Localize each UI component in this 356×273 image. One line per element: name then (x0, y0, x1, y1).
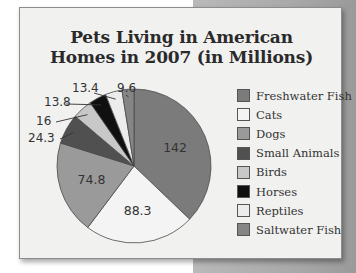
legend-swatch (237, 127, 250, 140)
legend-label: Freshwater Fish (256, 89, 352, 103)
legend-label: Horses (256, 185, 297, 199)
legend-swatch (237, 204, 250, 217)
legend-item-birds: Birds (237, 163, 352, 182)
slice-value-label: 74.8 (78, 172, 106, 187)
legend-item-horses: Horses (237, 182, 352, 201)
legend-label: Small Animals (256, 146, 339, 160)
legend-item-freshwater-fish: Freshwater Fish (237, 86, 352, 105)
legend-label: Saltwater Fish (256, 223, 341, 237)
slice-value-label: 13.8 (44, 95, 71, 109)
legend-item-small-animals: Small Animals (237, 144, 352, 163)
legend: Freshwater FishCatsDogsSmall AnimalsBird… (237, 86, 352, 240)
legend-label: Cats (256, 108, 282, 122)
slice-value-label: 16 (36, 114, 51, 128)
legend-item-dogs: Dogs (237, 124, 352, 143)
slice-value-label: 88.3 (124, 203, 152, 218)
chart-card: Pets Living in American Homes in 2007 (i… (19, 7, 342, 259)
legend-swatch (237, 185, 250, 198)
legend-swatch (237, 166, 250, 179)
legend-swatch (237, 147, 250, 160)
slice-value-label: 24.3 (28, 131, 55, 145)
legend-label: Dogs (256, 127, 285, 141)
legend-swatch (237, 223, 250, 236)
legend-label: Birds (256, 165, 287, 179)
slice-value-label: 9.6 (117, 81, 136, 95)
legend-label: Reptiles (256, 204, 304, 218)
legend-swatch (237, 89, 250, 102)
legend-item-cats: Cats (237, 105, 352, 124)
slice-value-label: 142 (163, 140, 187, 155)
legend-swatch (237, 108, 250, 121)
slice-value-label: 13.4 (72, 81, 99, 95)
legend-item-saltwater-fish: Saltwater Fish (237, 220, 352, 239)
legend-item-reptiles: Reptiles (237, 201, 352, 220)
